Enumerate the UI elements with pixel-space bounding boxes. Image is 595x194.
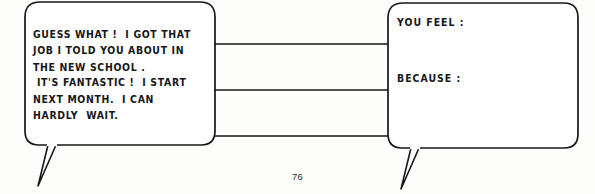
worksheet-page: GUESS WHAT ! I GOT THAT JOB I TOLD YOU A… xyxy=(0,0,595,194)
prompt-because-label: BECAUSE : xyxy=(397,72,461,84)
prompt-you-feel-label: YOU FEEL : xyxy=(397,16,465,28)
speech-bubble-left-text: GUESS WHAT ! I GOT THAT JOB I TOLD YOU A… xyxy=(33,26,209,124)
speech-bubble-right-shape xyxy=(388,3,578,189)
connector-lines xyxy=(215,44,389,136)
page-number: 76 xyxy=(0,171,595,182)
